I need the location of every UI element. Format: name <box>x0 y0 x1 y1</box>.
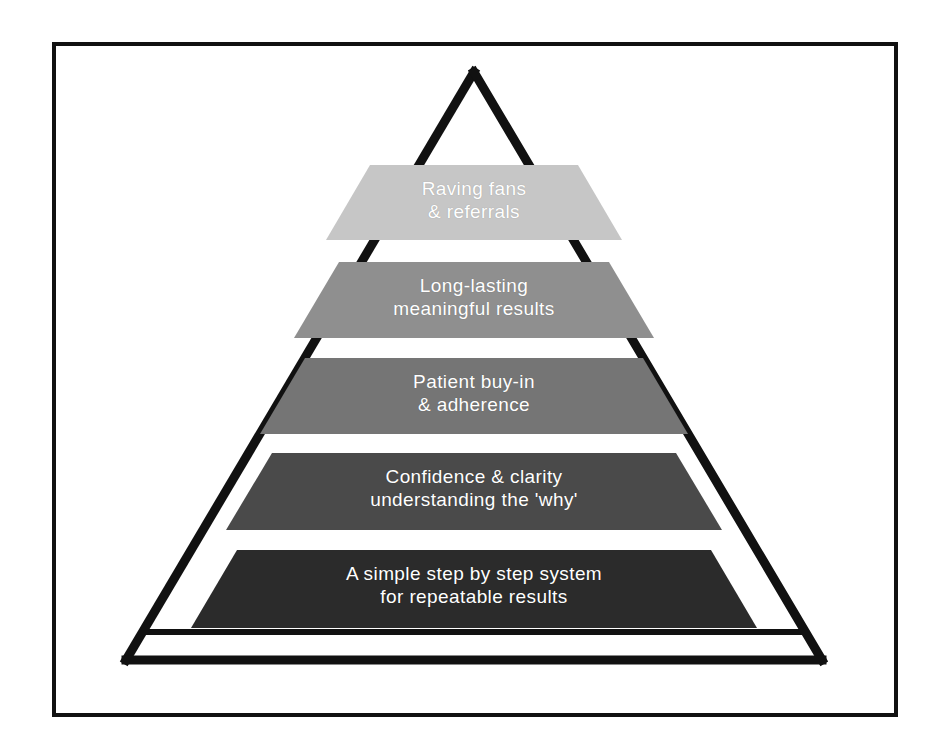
diagram-canvas: Raving fans & referrals Long-lasting mea… <box>0 0 949 753</box>
pyramid-tier-5-shape[interactable] <box>191 550 757 628</box>
pyramid-graphic <box>0 0 949 753</box>
pyramid-tier-3-shape[interactable] <box>260 358 688 434</box>
pyramid-tier-1-shape[interactable] <box>326 165 622 240</box>
pyramid-tier-4-shape[interactable] <box>226 453 722 530</box>
pyramid-tier-2-shape[interactable] <box>294 262 654 338</box>
